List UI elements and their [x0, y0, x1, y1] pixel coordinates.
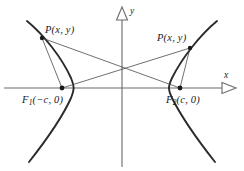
- label-focus-2-name: F: [166, 94, 173, 105]
- label-point-p-left: P(x, y): [45, 25, 74, 36]
- point-p-right-dot: [188, 46, 192, 50]
- point-focus-1-dot: [60, 86, 65, 91]
- hyperbola-left-branch: [27, 21, 74, 162]
- label-focus-2-coords: (c, 0): [177, 94, 200, 105]
- figure-canvas: [0, 0, 244, 171]
- label-x-axis: x: [224, 71, 228, 81]
- point-focus-2-dot: [178, 86, 183, 91]
- label-focus-1-name: F: [22, 94, 29, 105]
- hyperbola-figure: P(x, y) P(x, y) F1(−c, 0) F2(c, 0) y x: [0, 0, 244, 171]
- label-point-p-right: P(x, y): [157, 33, 186, 44]
- label-focus-2: F2(c, 0): [166, 95, 200, 106]
- ray-pright-to-f2: [180, 48, 190, 88]
- ray-pleft-to-f1: [42, 38, 62, 88]
- label-y-axis: y: [130, 7, 134, 17]
- label-focus-1: F1(−c, 0): [22, 95, 63, 106]
- x-axis-arrowhead-icon: [222, 83, 236, 94]
- label-focus-1-coords: (−c, 0): [33, 94, 64, 105]
- y-axis-arrowhead-icon: [117, 7, 128, 20]
- point-p-left-dot: [40, 36, 44, 40]
